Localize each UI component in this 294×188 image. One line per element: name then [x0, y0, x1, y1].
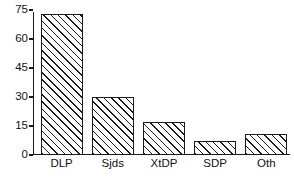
x-axis-tick-label: DLP [50, 158, 72, 170]
y-axis-tick-label: 30 [15, 91, 28, 103]
y-axis-tick [29, 96, 33, 97]
x-axis-tick-labels: DLPSjdsXtDPSDPOth [34, 158, 290, 180]
y-axis-tick-label: 60 [15, 33, 28, 45]
bar-sdp[interactable] [194, 141, 236, 156]
y-axis-tick [29, 38, 33, 39]
y-axis-tick [29, 154, 33, 155]
y-axis-tick [29, 125, 33, 126]
bar-sjds[interactable] [92, 97, 134, 155]
x-axis-tick-label: Oth [257, 158, 276, 170]
y-axis-tick-label: 0 [22, 149, 28, 161]
y-axis-tick-label: 75 [15, 4, 28, 16]
bar-xtdp[interactable] [143, 122, 185, 155]
y-axis-tick [29, 9, 33, 10]
x-axis-tick-label: XtDP [151, 158, 178, 170]
bar-dlp[interactable] [41, 14, 83, 155]
y-axis-tick-label: 45 [15, 62, 28, 74]
bar-oth[interactable] [245, 134, 287, 155]
x-axis-tick-label: Sjds [102, 158, 124, 170]
x-axis-tick-label: SDP [203, 158, 227, 170]
bars-layer [34, 10, 290, 155]
y-axis-tick [29, 67, 33, 68]
y-axis-tick-label: 15 [15, 120, 28, 132]
bar-chart: 01530456075 DLPSjdsXtDPSDPOth [0, 0, 294, 188]
y-axis-tick-labels: 01530456075 [0, 0, 28, 188]
